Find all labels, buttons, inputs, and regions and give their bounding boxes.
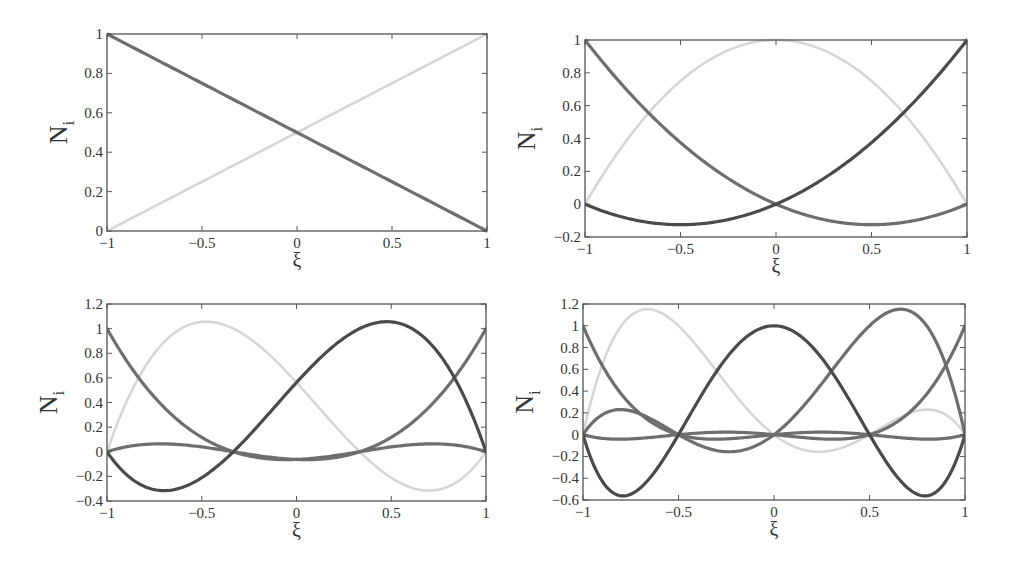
y-tick-label: 0.6 xyxy=(562,98,581,114)
x-tick-label: 0.5 xyxy=(383,235,402,251)
x-axis-label: ξ xyxy=(772,255,781,277)
y-tick-label: 1.2 xyxy=(560,296,579,312)
x-tick-label: 1 xyxy=(483,235,491,251)
y-tick-label: 0.2 xyxy=(84,419,103,435)
y-tick-label: 0.2 xyxy=(560,405,579,421)
shape-function-curve-2 xyxy=(585,40,967,204)
y-tick-label: 1 xyxy=(574,32,582,48)
x-axis-label: ξ xyxy=(292,519,301,541)
x-tick-label: 0.5 xyxy=(860,504,879,520)
panel-cubic: −1−0.500.51−0.4−0.200.20.40.60.811.2ξNi xyxy=(34,296,490,541)
y-tick-label: 1 xyxy=(572,318,580,334)
x-tick-label: 1 xyxy=(963,241,971,257)
plot-frame xyxy=(583,304,965,500)
y-tick-label: 0.4 xyxy=(84,395,103,411)
x-axis-label: ξ xyxy=(770,518,779,540)
curves xyxy=(107,34,487,231)
shape-function-figure: −1−0.500.5100.20.40.60.81ξNi −1−0.500.51… xyxy=(0,0,1012,573)
y-tick-label: −0.4 xyxy=(552,470,580,486)
curves xyxy=(107,322,486,491)
x-tick-label: 0.5 xyxy=(382,505,401,521)
x-tick-label: −0.5 xyxy=(188,505,215,521)
y-tick-label: 0.2 xyxy=(84,184,103,200)
x-axis-label: ξ xyxy=(293,249,302,271)
y-tick-label: 0 xyxy=(572,427,580,443)
curves xyxy=(583,309,965,496)
y-axis-label: Ni xyxy=(510,390,544,414)
x-tick-label: −0.5 xyxy=(667,241,694,257)
y-tick-label: 1 xyxy=(96,26,104,42)
y-tick-label: 0 xyxy=(96,444,104,460)
y-axis-label: Ni xyxy=(512,126,546,150)
shape-function-curve-1 xyxy=(583,326,965,439)
y-axis-label: Ni xyxy=(34,390,68,414)
y-tick-label: −0.2 xyxy=(554,229,581,245)
shape-function-curve-4 xyxy=(583,309,965,452)
y-tick-label: 0.4 xyxy=(562,131,581,147)
y-tick-label: 0 xyxy=(574,196,582,212)
y-tick-label: 0.4 xyxy=(560,383,579,399)
shape-function-curve-1 xyxy=(585,40,967,225)
panel-linear: −1−0.500.5100.20.40.60.81ξNi xyxy=(44,26,491,271)
y-tick-label: 0.8 xyxy=(84,65,103,81)
y-tick-label: −0.2 xyxy=(552,448,579,464)
plot-frame xyxy=(107,304,486,501)
x-tick-label: −0.5 xyxy=(188,235,215,251)
y-tick-label: 0.6 xyxy=(560,361,579,377)
shape-function-curve-1 xyxy=(107,329,486,460)
shape-function-curve-3 xyxy=(583,326,965,496)
y-tick-label: 0.2 xyxy=(562,163,581,179)
x-tick-label: 0.5 xyxy=(862,241,881,257)
shape-function-curve-3 xyxy=(585,40,967,225)
y-tick-label: 0.6 xyxy=(84,105,103,121)
y-tick-label: 0.8 xyxy=(562,65,581,81)
shape-function-curve-5 xyxy=(583,326,965,439)
y-tick-label: 0.8 xyxy=(560,340,579,356)
y-tick-label: 0.8 xyxy=(84,345,103,361)
x-tick-label: −0.5 xyxy=(665,504,692,520)
plot-frame xyxy=(585,40,967,237)
x-tick-label: 1 xyxy=(961,504,969,520)
panel-quartic: −1−0.500.51−0.6−0.4−0.200.20.40.60.811.2… xyxy=(510,296,969,540)
panel-quadratic: −1−0.500.51−0.200.20.40.60.81ξNi xyxy=(512,32,971,277)
y-tick-label: 0 xyxy=(96,223,104,239)
x-tick-label: 1 xyxy=(482,505,490,521)
y-tick-label: 1 xyxy=(96,321,104,337)
y-tick-label: 0.6 xyxy=(84,370,103,386)
y-tick-label: 0.4 xyxy=(84,144,103,160)
shape-function-curve-2 xyxy=(583,309,965,452)
y-tick-label: −0.2 xyxy=(76,468,103,484)
y-tick-label: −0.6 xyxy=(552,492,580,508)
y-tick-label: −0.4 xyxy=(76,493,104,509)
y-tick-label: 1.2 xyxy=(84,296,103,312)
y-axis-label: Ni xyxy=(44,120,78,144)
curves xyxy=(585,40,967,225)
shape-function-curve-4 xyxy=(107,329,486,460)
